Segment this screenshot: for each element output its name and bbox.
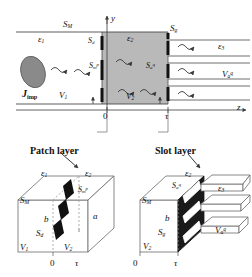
axis-label-z: z bbox=[237, 103, 241, 112]
slot-label-v-a-q: Vaq bbox=[215, 226, 226, 236]
aperture-right-2 bbox=[167, 41, 170, 55]
slot-label-b: b bbox=[165, 214, 170, 223]
slot-label-eps3: ε3 bbox=[218, 184, 224, 194]
slot-layer-group bbox=[140, 154, 250, 256]
axis-origin-top: 0 bbox=[103, 112, 108, 121]
label-s-d-top: Sd bbox=[88, 37, 94, 46]
patch-axis-origin: 0 bbox=[50, 259, 55, 268]
slot-label-v2: V2 bbox=[143, 242, 151, 252]
impressed-current-source bbox=[17, 53, 50, 91]
slot-label-s-m: SM bbox=[142, 196, 151, 206]
aperture-right-3 bbox=[167, 64, 170, 78]
label-s-m-top: SM bbox=[63, 20, 72, 30]
axis-tau-top: τ bbox=[165, 112, 168, 121]
label-eps3-top: ε3 bbox=[218, 42, 224, 52]
slot-layer-title: Slot layer bbox=[155, 145, 196, 156]
slot-label-s-g: Sg bbox=[158, 228, 165, 238]
aperture-right-4 bbox=[167, 87, 170, 101]
axis-label-y: y bbox=[111, 14, 115, 23]
label-eps1-top: ε1 bbox=[38, 35, 44, 45]
patch-label-a: a bbox=[93, 212, 98, 221]
label-j-imp: Jimp bbox=[22, 89, 37, 100]
region-eps2-slab bbox=[102, 32, 168, 104]
patch-label-s-d: Sd bbox=[36, 229, 43, 239]
slot-label-eps2: ε2 bbox=[185, 169, 191, 179]
patch-axis-tau: τ bbox=[75, 259, 78, 268]
slot-label-s-a-q: Saq bbox=[172, 182, 181, 191]
patch-label-s-m: SM bbox=[20, 196, 29, 206]
label-s-m-p-top: Smp bbox=[89, 62, 99, 71]
patch-layer-group bbox=[18, 154, 114, 256]
patch-layer-title: Patch layer bbox=[30, 145, 79, 156]
label-v1-top: V1 bbox=[59, 91, 67, 101]
patch-label-b: b bbox=[44, 215, 49, 224]
patch-label-v2: V2 bbox=[64, 243, 72, 253]
aperture-left-1 bbox=[101, 36, 104, 50]
figure-canvas: SM ε1 Sd ε2 Sg ε3 Smp Saq Vaq V1 V2 Jimp… bbox=[0, 0, 252, 277]
label-s-a-q-top: Saq bbox=[146, 62, 155, 71]
waveguide-2 bbox=[201, 204, 241, 211]
patch-label-eps1: ε1 bbox=[41, 169, 47, 179]
slot-axis-tau: τ bbox=[174, 259, 177, 268]
patch-label-v1: V1 bbox=[20, 243, 28, 253]
patch-label-s-m-p: Smp bbox=[78, 186, 88, 195]
label-v-a-q-top: Vaq bbox=[222, 70, 233, 80]
slot-axis-origin: 0 bbox=[133, 259, 138, 268]
label-eps2-top: ε2 bbox=[127, 34, 133, 44]
label-s-g-top: Sg bbox=[170, 24, 177, 34]
aperture-left-2 bbox=[101, 60, 104, 80]
patch-label-eps2: ε2 bbox=[85, 169, 91, 179]
aperture-left-3 bbox=[101, 88, 104, 102]
label-v2-top: V2 bbox=[126, 92, 134, 102]
